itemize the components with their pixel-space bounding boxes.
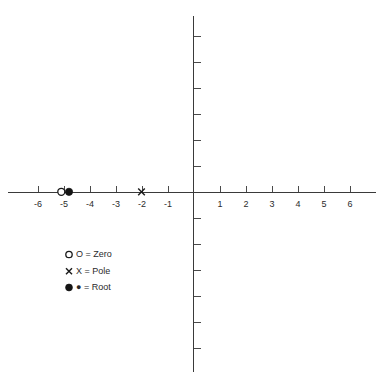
root-marker[interactable]: [65, 188, 72, 195]
legend-open-circle-icon: [66, 251, 72, 257]
x-tick-label: 6: [347, 199, 352, 209]
pole-zero-plot: -6 -5 -4 -3 -2 -1 1 2 3 4 5 6: [0, 0, 384, 382]
legend-cross-x-icon: [66, 268, 72, 274]
x-tick-label: 3: [269, 199, 274, 209]
x-tick-label: 1: [217, 199, 222, 209]
legend: O = Zero X = Pole ● = Root: [66, 249, 112, 292]
plot-canvas: -6 -5 -4 -3 -2 -1 1 2 3 4 5 6: [0, 0, 384, 382]
legend-item-root: ● = Root: [66, 282, 112, 292]
x-tick-label: 4: [295, 199, 300, 209]
legend-label-pole: X = Pole: [76, 266, 110, 276]
x-tick-label: 2: [243, 199, 248, 209]
x-tick-label: -6: [34, 199, 42, 209]
x-tick-label: -4: [86, 199, 94, 209]
legend-item-zero: O = Zero: [66, 249, 112, 259]
x-tick-label: -1: [164, 199, 172, 209]
x-tick-label: 5: [321, 199, 326, 209]
legend-label-root: ● = Root: [76, 282, 111, 292]
legend-label-zero: O = Zero: [76, 249, 112, 259]
x-tick-label: -3: [112, 199, 120, 209]
x-tick-label: -5: [60, 199, 68, 209]
data-markers: [58, 188, 145, 195]
zero-marker[interactable]: [58, 188, 65, 195]
x-axis-ticks: [39, 186, 351, 192]
pole-marker[interactable]: [138, 189, 145, 196]
legend-filled-circle-icon: [66, 284, 73, 291]
legend-item-pole: X = Pole: [66, 266, 110, 276]
x-tick-label: -2: [138, 199, 146, 209]
